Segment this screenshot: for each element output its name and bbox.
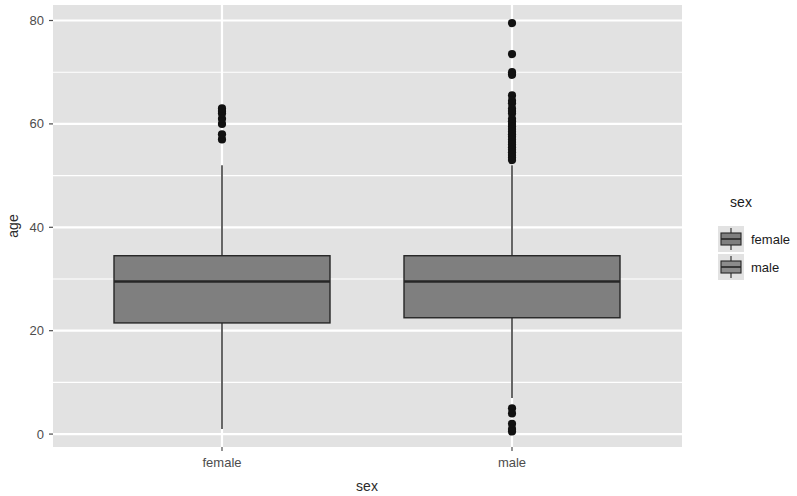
outlier-point [508, 156, 516, 164]
chart-svg: 020406080 female male sex age sex female [0, 0, 797, 496]
x-axis-title: sex [356, 478, 378, 494]
x-tick-label-male: male [498, 455, 526, 470]
box-iqr [114, 256, 330, 323]
y-axis-ticks [49, 21, 53, 435]
legend-label-male: male [751, 260, 779, 275]
box-iqr [404, 256, 620, 318]
plot-panel [53, 5, 682, 447]
outlier-point [508, 427, 516, 435]
outlier-point [508, 50, 516, 58]
outlier-point [508, 19, 516, 27]
y-tick-label-0: 0 [37, 427, 44, 442]
legend-title: sex [730, 194, 752, 210]
y-tick-label-80: 80 [30, 13, 44, 28]
y-tick-label-20: 20 [30, 323, 44, 338]
outlier-point [218, 104, 226, 112]
y-tick-label-40: 40 [30, 220, 44, 235]
legend-label-female: female [751, 232, 790, 247]
legend-item-female[interactable]: female [718, 226, 790, 252]
x-axis-ticks [222, 447, 512, 451]
outlier-point [508, 409, 516, 417]
y-axis-title: age [5, 214, 21, 238]
legend: sex female male [718, 194, 790, 280]
outlier-point [508, 71, 516, 79]
y-axis-tick-labels: 020406080 [30, 13, 44, 442]
boxplot-chart: 020406080 female male sex age sex female [0, 0, 797, 496]
y-tick-label-60: 60 [30, 116, 44, 131]
outlier-point [218, 130, 226, 138]
x-tick-label-female: female [202, 455, 241, 470]
legend-item-male[interactable]: male [718, 254, 779, 280]
